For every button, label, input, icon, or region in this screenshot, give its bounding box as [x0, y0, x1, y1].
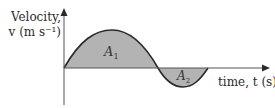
velocity-time-graph: A1 A2: [0, 0, 275, 108]
y-axis-arrowhead: [61, 8, 68, 16]
x-axis-arrowhead: [262, 65, 270, 72]
